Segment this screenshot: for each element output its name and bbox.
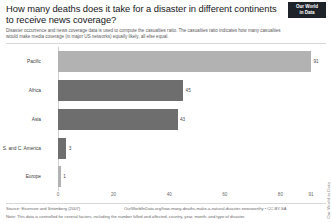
bar-track: 45 (58, 76, 326, 105)
bar-value-label: 45 (186, 88, 191, 93)
x-axis-tick-label: 60 (222, 192, 227, 197)
bar-asia[interactable] (58, 109, 178, 130)
page-title: How many deaths does it take for a disas… (6, 4, 282, 25)
owid-logo-line2: in Data (288, 10, 326, 16)
bar-europe[interactable] (58, 166, 61, 187)
bar-value-label: 91 (314, 59, 319, 64)
x-axis-tick-label: 40 (167, 192, 172, 197)
chart-subtitle: Disaster occurrence and news coverage da… (6, 28, 282, 39)
bar-value-label: 3 (69, 146, 72, 151)
owid-url-link[interactable]: OurWorldInData.org/how-many-deaths-make-… (124, 206, 287, 211)
x-axis: 02040608091 (6, 192, 326, 201)
bar-africa[interactable] (58, 80, 183, 101)
bar-track: 43 (58, 105, 326, 134)
bar-category-label: S. and C. America (0, 146, 44, 151)
bar-category-label: Asia (0, 117, 44, 122)
bar-track: 91 (58, 47, 326, 76)
plot-area: Pacific91Africa45Asia43S. and C. America… (6, 47, 326, 191)
note-text: Note: This data is controlled for severa… (6, 214, 312, 219)
x-axis-tick-label: 80 (278, 192, 283, 197)
x-axis-tick-label: 20 (111, 192, 116, 197)
x-axis-tick-label: 91 (308, 192, 313, 197)
bar-row[interactable]: Europe1 (6, 163, 326, 192)
chart-header: How many deaths does it take for a disas… (6, 4, 326, 39)
bar-pacific[interactable] (58, 51, 311, 72)
bar-row[interactable]: Pacific91 (6, 47, 326, 76)
bar-category-label: Europe (0, 174, 44, 179)
bar-category-label: Pacific (0, 59, 44, 64)
bar-track: 1 (58, 163, 326, 192)
owid-logo[interactable]: Our World in Data (288, 2, 326, 18)
bar-track: 3 (58, 134, 326, 163)
owid-watermark: Our World in Data (326, 182, 331, 219)
bar-category-label: Africa (0, 88, 44, 93)
chart-footer: Source: Eisensee and Strömberg (2007) Ou… (6, 206, 326, 219)
bar-s-and-c-america[interactable] (58, 138, 66, 159)
x-axis-tick-label: 0 (57, 192, 60, 197)
bar-value-label: 43 (180, 117, 185, 122)
bar-value-label: 1 (63, 174, 66, 179)
footer-divider (6, 203, 326, 204)
header-divider (6, 43, 326, 44)
bar-row[interactable]: Asia43 (6, 105, 326, 134)
bar-row[interactable]: S. and C. America3 (6, 134, 326, 163)
chart-container: How many deaths does it take for a disas… (0, 0, 332, 223)
source-text: Source: Eisensee and Strömberg (2007) (6, 206, 80, 211)
bar-row[interactable]: Africa45 (6, 76, 326, 105)
